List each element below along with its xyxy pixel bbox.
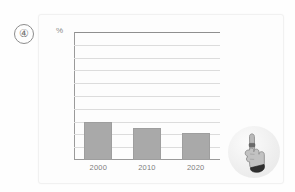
y-axis-unit-label: %: [56, 26, 63, 35]
x-tick-label-2010: 2010: [123, 163, 172, 172]
bars-group: [74, 32, 220, 160]
page-root: ④ % 200020102020: [0, 0, 295, 192]
plot-area: [74, 32, 220, 160]
pointing-hand-cursor-icon[interactable]: [228, 126, 280, 178]
x-axis-tick-labels: 200020102020: [74, 163, 220, 175]
bar-2000: [84, 122, 112, 160]
x-tick-label-2020: 2020: [171, 163, 220, 172]
bar-2020: [182, 133, 210, 160]
x-tick-label-2000: 2000: [74, 163, 123, 172]
question-number-marker: ④: [14, 24, 34, 44]
bar-2010: [133, 128, 161, 160]
